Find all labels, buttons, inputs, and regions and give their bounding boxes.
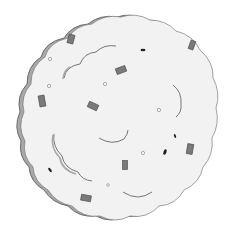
sugar-dot <box>103 82 106 85</box>
sugar-dot <box>47 84 50 87</box>
sprinkle <box>186 144 194 155</box>
sugar-dot <box>141 151 144 154</box>
sprinkle <box>81 194 92 202</box>
sugar-dot <box>48 57 51 60</box>
sprinkle <box>123 161 128 170</box>
cookie-illustration <box>0 0 227 236</box>
sugar-dot <box>107 184 110 187</box>
sugar-dot <box>157 108 160 111</box>
sprinkle-dot <box>141 49 146 52</box>
